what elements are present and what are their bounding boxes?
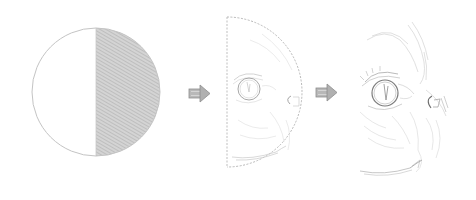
chin-sketch — [232, 146, 286, 160]
chin-sketch — [360, 160, 422, 175]
right-arrow-icon — [189, 85, 210, 102]
step-1-half-hatched-circle — [32, 28, 160, 156]
nose-sketch — [288, 96, 299, 106]
step-3-cat-sketch — [360, 22, 448, 175]
fur-sketch — [360, 112, 440, 172]
diagram-svg — [0, 0, 476, 200]
step-2-half-circle-sketch — [227, 17, 302, 167]
diagram-canvas — [0, 0, 476, 200]
eye-sketch — [360, 66, 414, 110]
right-arrow-icon — [316, 84, 337, 101]
fur-sketch — [238, 34, 292, 150]
nose-sketch — [428, 96, 448, 112]
eye-sketch — [233, 74, 276, 103]
